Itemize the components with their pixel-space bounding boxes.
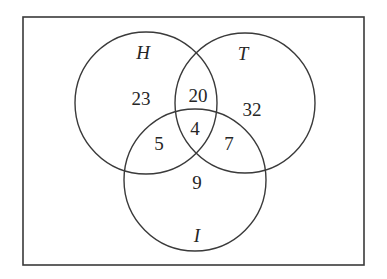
set-label-h: H bbox=[135, 42, 151, 63]
region-h-t-only: 20 bbox=[189, 85, 208, 106]
set-label-t: T bbox=[238, 43, 250, 64]
region-i-only: 9 bbox=[192, 172, 202, 193]
region-t-only: 32 bbox=[243, 99, 262, 120]
region-t-i-only: 7 bbox=[224, 133, 234, 154]
venn-diagram: H T I 23 20 32 4 5 7 9 bbox=[0, 0, 387, 279]
region-h-t-i: 4 bbox=[190, 118, 200, 139]
region-h-i-only: 5 bbox=[154, 133, 164, 154]
set-label-i: I bbox=[193, 225, 202, 246]
region-h-only: 23 bbox=[132, 88, 151, 109]
